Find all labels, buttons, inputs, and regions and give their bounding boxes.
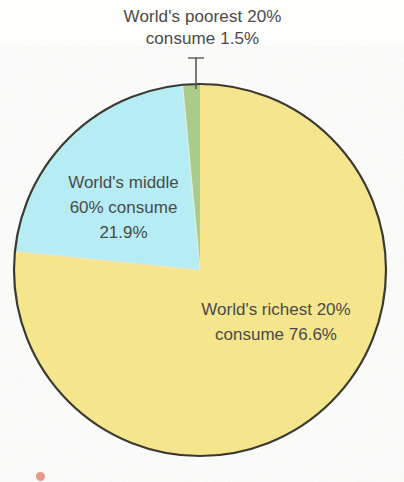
slice-label-richest: World's richest 20% consume 76.6% xyxy=(176,297,376,347)
callout-poorest: World's poorest 20% consume 1.5% xyxy=(70,6,335,50)
slice-label-middle: World's middle 60% consume 21.9% xyxy=(36,170,211,245)
pie-chart-figure: World's poorest 20% consume 1.5% World's… xyxy=(0,0,404,482)
corner-smudge-mark xyxy=(36,472,45,481)
